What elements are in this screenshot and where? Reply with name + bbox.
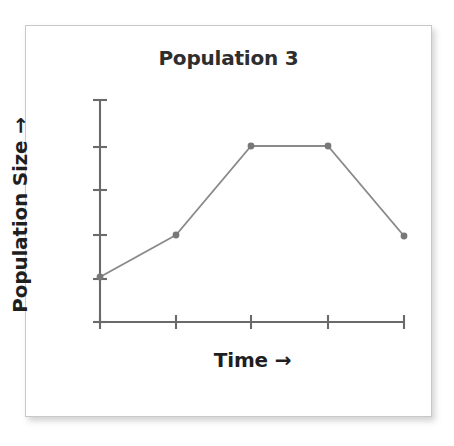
tick-marks-group: [93, 100, 404, 329]
series-line-population-3: [100, 146, 404, 277]
data-point-0: [97, 274, 104, 281]
data-point-2: [248, 143, 255, 150]
data-point-4: [401, 233, 408, 240]
line-chart-plot: [0, 0, 454, 446]
data-point-1: [173, 232, 180, 239]
data-point-3: [325, 143, 332, 150]
data-point-markers: [97, 143, 408, 281]
chart-screenshot: Population 3 Population Size → Time →: [0, 0, 454, 446]
axes-group: [100, 100, 404, 322]
